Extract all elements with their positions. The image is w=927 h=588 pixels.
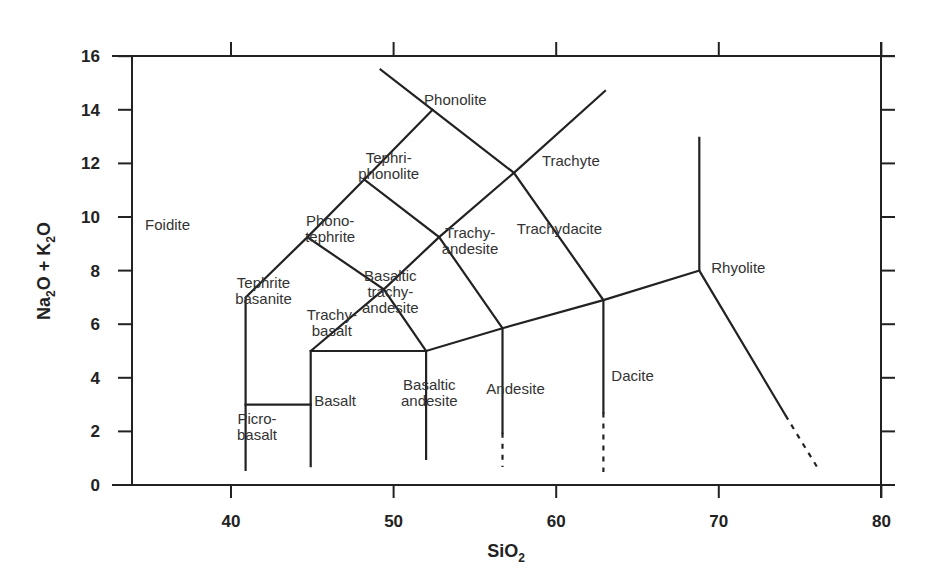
field-label-basaltic-trachyandesite: Basaltictrachy-andesite xyxy=(362,267,419,316)
field-label-phonotephrite: Phono-tephrite xyxy=(305,212,355,245)
y-tick-label: 14 xyxy=(81,101,100,120)
field-boundary-solid xyxy=(311,351,426,466)
x-tick-label: 40 xyxy=(222,512,241,531)
tick-labels: 40506070800246810121416 xyxy=(81,47,891,531)
x-tick-label: 50 xyxy=(384,512,403,531)
field-label-rhyolite: Rhyolite xyxy=(711,259,765,276)
y-tick-label: 12 xyxy=(81,154,100,173)
x-axis-title: SiO2 xyxy=(487,541,525,565)
field-boundary-solid xyxy=(699,138,785,415)
field-boundary-solid xyxy=(381,70,604,301)
field-label-picrobasalt: Picro-basalt xyxy=(237,410,278,443)
field-boundary-solid xyxy=(426,271,699,351)
y-tick-label: 6 xyxy=(91,315,100,334)
y-axis-title: Na2O + K2O xyxy=(34,222,58,320)
x-tick-label: 60 xyxy=(547,512,566,531)
y-tick-label: 4 xyxy=(91,369,101,388)
y-tick-label: 16 xyxy=(81,47,100,66)
field-label-dacite: Dacite xyxy=(611,367,654,384)
y-tick-label: 2 xyxy=(91,422,100,441)
field-label-tephriphonolite: Tephri-phonolite xyxy=(358,149,419,182)
field-label-foidite: Foidite xyxy=(145,216,190,233)
field-label-basaltic-andesite: Basalticandesite xyxy=(401,376,458,409)
y-tick-label: 0 xyxy=(91,476,100,495)
x-tick-label: 80 xyxy=(872,512,891,531)
field-label-tephrite-basanite: Tephritebasanite xyxy=(235,274,292,307)
field-label-trachyandesite: Trachy-andesite xyxy=(442,224,499,257)
field-boundary-dashed xyxy=(786,415,820,471)
tas-diagram: 40506070800246810121416 FoiditePicro-bas… xyxy=(0,0,927,588)
field-label-trachyte: Trachyte xyxy=(542,152,600,169)
field-label-trachybasalt: Trachy-basalt xyxy=(307,306,357,339)
field-label-andesite: Andesite xyxy=(486,380,544,397)
field-labels: FoiditePicro-basaltBasaltBasalticandesit… xyxy=(145,91,765,443)
field-label-trachydacite: Trachydacite xyxy=(517,220,602,237)
y-tick-label: 10 xyxy=(81,208,100,227)
field-label-phonolite: Phonolite xyxy=(424,91,487,108)
x-tick-label: 70 xyxy=(709,512,728,531)
y-tick-label: 8 xyxy=(91,262,100,281)
field-label-basalt: Basalt xyxy=(314,392,357,409)
axis-ticks xyxy=(118,42,895,498)
